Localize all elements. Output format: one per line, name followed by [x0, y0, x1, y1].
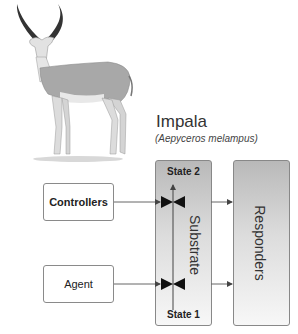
- diagram-connectors: [0, 0, 298, 334]
